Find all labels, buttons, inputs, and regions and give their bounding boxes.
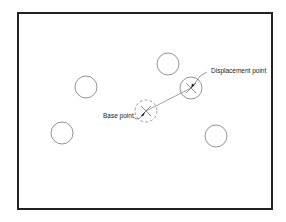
displacement-vector-line xyxy=(146,88,191,111)
base-point-leader xyxy=(133,113,144,119)
circle-object xyxy=(51,122,73,144)
circle-object xyxy=(75,76,97,98)
move-diagram: Base point Displacement point xyxy=(0,0,286,222)
displacement-point-label: Displacement point xyxy=(211,67,266,75)
circle-object xyxy=(157,53,179,75)
circle-object xyxy=(205,125,227,147)
drawing-frame xyxy=(18,13,272,209)
base-point-label: Base point xyxy=(103,112,134,120)
